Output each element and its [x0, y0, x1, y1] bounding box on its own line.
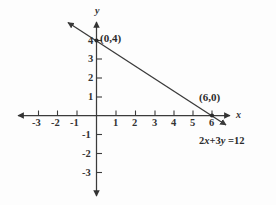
x-tick-label-4: 4	[171, 118, 176, 129]
x-tick-label-neg1: -1	[70, 118, 79, 129]
x-axis-ticks	[39, 111, 213, 116]
x-tick-label-5: 5	[190, 118, 195, 129]
x-tick-label-neg3: -3	[32, 118, 41, 129]
x-tick-label-3: 3	[152, 118, 157, 129]
equation-label: 2x+3y =12	[199, 136, 245, 147]
y-tick-label-2: 2	[88, 73, 93, 84]
y-axis-label: y	[95, 6, 99, 16]
x-tick-label-1: 1	[113, 118, 118, 129]
y-tick-label-3: 3	[88, 54, 93, 65]
x-axis-label: x	[236, 110, 241, 120]
y-tick-label-1: 1	[88, 92, 93, 103]
y-tick-label-neg2: -2	[82, 149, 91, 160]
point-label-x-intercept: (6,0)	[199, 92, 220, 103]
x-tick-label-2: 2	[132, 118, 137, 129]
y-tick-label-4: 4	[88, 36, 93, 47]
y-tick-label-neg1: -1	[82, 130, 91, 141]
equation-value: =12	[225, 135, 244, 146]
y-tick-label-neg3: -3	[82, 168, 91, 179]
graph-screenshot: y x -3 -2 -1 1 2 3 4 5 6 4 3 2 1 -1 -2 -…	[0, 0, 276, 205]
x-tick-label-6: 6	[209, 118, 214, 129]
coordinate-plane-svg	[0, 0, 276, 205]
x-tick-label-neg2: -2	[51, 118, 60, 129]
point-label-y-intercept: (0,4)	[100, 33, 121, 44]
y-axis-ticks	[97, 41, 103, 173]
equation-coef-y: +3	[210, 135, 221, 146]
